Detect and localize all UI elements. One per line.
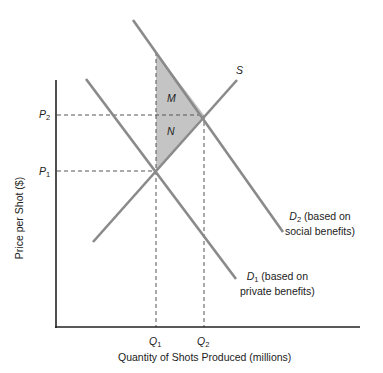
tick-p2-base: P (39, 108, 46, 120)
d2-desc1: (based on (301, 210, 351, 222)
tick-p2-sub: 2 (46, 113, 50, 122)
tick-q1: Q1 (149, 335, 161, 350)
region-label-n: N (167, 125, 175, 137)
tick-q2-sub: 2 (205, 340, 209, 349)
d2-label: D2 (based on social benefits) (285, 210, 355, 237)
tick-q1-sub: 1 (157, 340, 161, 349)
tick-p2: P2 (39, 108, 50, 123)
d2-label-line2: social benefits) (285, 225, 355, 237)
tick-p1: P1 (39, 165, 50, 180)
tick-p1-sub: 1 (46, 170, 50, 179)
d1-desc1: (based on (258, 270, 308, 282)
d1-label-line1: D1 (based on (240, 270, 315, 285)
d2-base: D (289, 210, 297, 222)
d1-label: D1 (based on private benefits) (240, 270, 315, 297)
tick-p1-base: P (39, 165, 46, 177)
d1-label-line2: private benefits) (240, 285, 315, 297)
d2-label-line1: D2 (based on (285, 210, 355, 225)
supply-demand-diagram (0, 0, 383, 373)
x-axis-label: Quantity of Shots Produced (millions) (118, 351, 291, 363)
y-axis-label: Price per Shot ($) (13, 177, 25, 259)
tick-q1-base: Q (149, 335, 157, 347)
tick-q2-base: Q (197, 335, 205, 347)
tick-q2: Q2 (197, 335, 209, 350)
region-label-m: M (167, 92, 176, 104)
supply-label: S (236, 64, 243, 76)
